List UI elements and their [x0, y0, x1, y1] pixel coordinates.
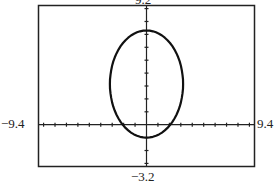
axes [39, 6, 254, 166]
ymax-label: 9.2 [135, 0, 151, 6]
ymin-label: −3.2 [131, 170, 155, 183]
xmin-label: −9.4 [1, 117, 25, 130]
xmax-label: 9.4 [257, 117, 273, 130]
graph-window [0, 0, 278, 187]
